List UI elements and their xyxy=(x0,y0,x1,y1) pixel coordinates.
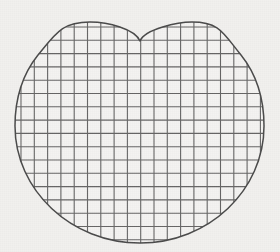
figure-canvas xyxy=(0,0,280,252)
heart-grid-figure xyxy=(0,0,280,252)
